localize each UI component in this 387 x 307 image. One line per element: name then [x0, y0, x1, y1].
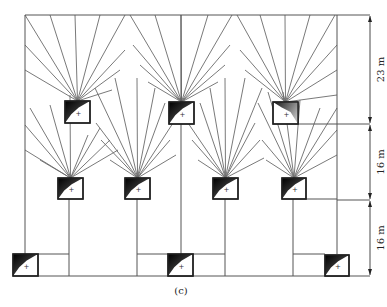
- dimension-label: 16 m: [375, 225, 386, 251]
- light-ray: [137, 78, 138, 178]
- light-ray: [71, 128, 101, 178]
- luminaire-mid-3: +: [213, 178, 238, 199]
- light-ray: [71, 150, 119, 178]
- light-ray: [138, 103, 166, 178]
- light-ray: [182, 45, 231, 102]
- light-ray: [286, 95, 338, 102]
- plus-marker-icon: +: [292, 186, 298, 194]
- plus-marker-icon: +: [224, 186, 230, 194]
- figure-caption: (c): [174, 285, 188, 296]
- light-ray: [130, 15, 182, 102]
- plus-marker-icon: +: [24, 263, 30, 271]
- luminaire-bot-3: +: [325, 255, 349, 276]
- plus-marker-icon: +: [136, 186, 142, 194]
- light-ray: [294, 108, 337, 178]
- plus-marker-icon: +: [335, 263, 341, 271]
- plus-marker-icon: +: [179, 263, 185, 271]
- light-ray: [294, 155, 337, 178]
- light-ray: [192, 140, 226, 178]
- light-ray: [240, 50, 286, 102]
- light-ray: [138, 140, 171, 178]
- light-ray: [225, 78, 226, 178]
- luminaire-top-3: +: [273, 102, 298, 124]
- light-ray: [25, 45, 78, 101]
- lighting-layout-diagram: ++++++++++ 23 m16 m16 m (c): [0, 0, 387, 307]
- light-ray: [285, 15, 286, 102]
- dimension-annotations: 23 m16 m16 m: [368, 16, 386, 275]
- light-ray: [188, 123, 226, 178]
- light-ray: [133, 45, 182, 102]
- light-ray: [226, 78, 246, 178]
- luminaire-mid-4: +: [282, 178, 306, 199]
- dimension-1: 16 m: [368, 125, 386, 199]
- plus-marker-icon: +: [76, 110, 82, 118]
- frame-lines: [25, 15, 370, 276]
- light-ray: [286, 15, 336, 102]
- plus-marker-icon: +: [69, 186, 75, 194]
- luminaire-bot-1: +: [13, 254, 38, 276]
- light-ray: [226, 88, 263, 178]
- light-ray: [200, 103, 226, 178]
- light-ray: [75, 15, 78, 101]
- light-ray: [245, 70, 286, 102]
- light-ray: [138, 155, 177, 178]
- light-ray: [182, 15, 209, 102]
- plus-marker-icon: +: [284, 111, 290, 119]
- luminaire-mid-1: +: [58, 178, 83, 199]
- light-ray: [210, 88, 226, 178]
- dimension-label: 23 m: [375, 56, 386, 82]
- light-ray: [101, 140, 138, 178]
- luminaire-bot-2: +: [168, 254, 193, 276]
- light-ray: [260, 15, 286, 102]
- light-ray: [182, 15, 233, 102]
- dimension-label: 16 m: [375, 149, 386, 175]
- light-ray: [71, 140, 111, 178]
- luminaire-top-1: +: [65, 101, 90, 123]
- plus-marker-icon: +: [180, 111, 186, 119]
- light-ray: [25, 15, 78, 101]
- dimension-2: 16 m: [368, 201, 386, 275]
- light-ray: [50, 15, 78, 101]
- light-ray: [294, 130, 337, 178]
- luminaire-top-2: +: [169, 102, 194, 124]
- light-ray: [140, 65, 182, 102]
- dimension-0: 23 m: [368, 16, 386, 123]
- luminaire-mid-2: +: [125, 178, 150, 199]
- light-ray: [71, 135, 89, 178]
- light-ray: [182, 65, 226, 102]
- light-ray: [78, 15, 101, 101]
- light-ray: [25, 125, 71, 178]
